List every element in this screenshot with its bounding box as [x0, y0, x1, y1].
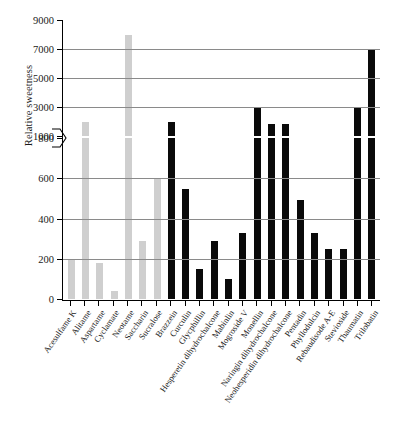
y-tick-mark — [57, 107, 63, 108]
relative-sweetness-bar-chart: Relative sweetness 100030005000700090000… — [0, 0, 398, 440]
y-axis-tick-label: 7000 — [33, 44, 54, 55]
bar-upper-naringin-dihydrochalcone — [268, 124, 275, 136]
y-axis-tick-label: 3000 — [33, 102, 54, 113]
bar-acesulfame-k — [68, 259, 75, 299]
bar-rebaudisode-a-e — [325, 249, 332, 299]
gridline — [63, 259, 380, 260]
bar-sucralose — [154, 178, 161, 299]
y-tick-mark — [57, 259, 63, 260]
y-tick-mark — [57, 138, 63, 139]
y-axis-tick-label: 200 — [38, 253, 54, 264]
y-axis-tick-label: 600 — [38, 173, 54, 184]
bar-upper-trilobatin — [368, 49, 375, 136]
bar-mogroside-v — [239, 233, 246, 299]
bar-aspartame — [96, 263, 103, 299]
bar-upper-alitame — [82, 122, 89, 137]
bar-glycphillin — [196, 269, 203, 299]
y-tick-mark — [57, 299, 63, 300]
bar-hesperetin-dihydrochalcone — [211, 241, 218, 299]
bar-upper-monellin — [254, 107, 261, 136]
y-axis-tick-label: 800 — [38, 133, 54, 144]
y-axis-tick-label: 400 — [38, 213, 54, 224]
y-tick-mark — [57, 136, 63, 137]
lower-panel — [63, 138, 380, 299]
y-tick-mark — [57, 20, 63, 21]
bar-upper-thaumatin — [354, 107, 361, 136]
y-tick-mark — [57, 219, 63, 220]
bar-cyclamate — [111, 291, 118, 299]
plot-area: 100030005000700090000200400600800 — [62, 20, 380, 301]
gridline — [63, 49, 380, 50]
gridline — [63, 107, 380, 108]
x-label-slot: Trilobatin — [365, 306, 379, 436]
bar-phyllodulcin — [311, 233, 318, 299]
gridline — [63, 219, 380, 220]
y-tick-mark — [57, 78, 63, 79]
gridline — [63, 78, 380, 79]
y-tick-mark — [57, 178, 63, 179]
y-tick-mark — [57, 49, 63, 50]
bar-mabinlin — [225, 279, 232, 299]
bar-curculin — [182, 189, 189, 299]
upper-panel — [63, 20, 380, 136]
y-axis-title: Relative sweetness — [23, 16, 34, 196]
gridline — [63, 178, 380, 179]
bar-upper-neohesperidin-dihydrochalcone — [282, 124, 289, 136]
x-axis-labels: Acesulfame KAlitameAspartameCyclamateNeo… — [62, 306, 380, 436]
bar-upper-brazzein — [168, 122, 175, 137]
y-axis-tick-label: 9000 — [33, 15, 54, 26]
y-axis-tick-label: 0 — [49, 294, 54, 305]
bar-saccharin — [139, 241, 146, 299]
y-axis-tick-label: 5000 — [33, 73, 54, 84]
bar-stevioside — [340, 249, 347, 299]
bar-pentadin — [297, 200, 304, 299]
